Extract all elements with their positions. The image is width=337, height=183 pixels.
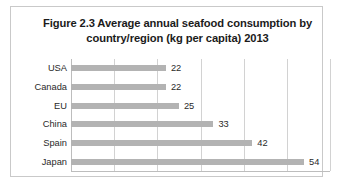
bar-canada	[71, 84, 166, 90]
figure-root: Figure 2.3 Average annual seafood consum…	[0, 0, 337, 183]
category-label-canada: Canada	[23, 82, 67, 92]
bar-spain	[71, 140, 252, 146]
gridline-20	[157, 59, 158, 171]
category-label-japan: Japan	[23, 157, 67, 167]
chart-title: Figure 2.3 Average annual seafood consum…	[25, 16, 330, 45]
bar-value-spain: 42	[257, 138, 267, 148]
gridline-60	[330, 59, 331, 171]
bar-china	[71, 121, 213, 127]
gridline-40	[244, 59, 245, 171]
chart-plot-wrapper: USACanadaEUChinaSpainJapan 222225334254	[25, 59, 330, 177]
bar-value-japan: 54	[309, 157, 319, 167]
bar-value-eu: 25	[184, 101, 194, 111]
bar-value-china: 33	[218, 119, 228, 129]
bar-eu	[71, 103, 179, 109]
chart-title-line-1: Figure 2.3 Average annual seafood consum…	[25, 16, 330, 31]
bar-value-canada: 22	[171, 82, 181, 92]
category-label-usa: USA	[23, 63, 67, 73]
x-axis-baseline	[71, 171, 330, 172]
category-axis: USACanadaEUChinaSpainJapan	[25, 59, 71, 177]
category-label-spain: Spain	[23, 138, 67, 148]
bar-japan	[71, 159, 304, 165]
bar-value-usa: 22	[171, 63, 181, 73]
y-axis-line	[71, 59, 72, 171]
chart-title-line-2: country/region (kg per capita) 2013	[25, 31, 330, 46]
bar-usa	[71, 65, 166, 71]
category-label-eu: EU	[23, 101, 67, 111]
gridline-50	[287, 59, 288, 171]
category-label-china: China	[23, 119, 67, 129]
gridline-30	[201, 59, 202, 171]
gridline-10	[114, 59, 115, 171]
figure-frame: Figure 2.3 Average annual seafood consum…	[10, 6, 323, 177]
plot-area: 222225334254	[71, 59, 330, 177]
